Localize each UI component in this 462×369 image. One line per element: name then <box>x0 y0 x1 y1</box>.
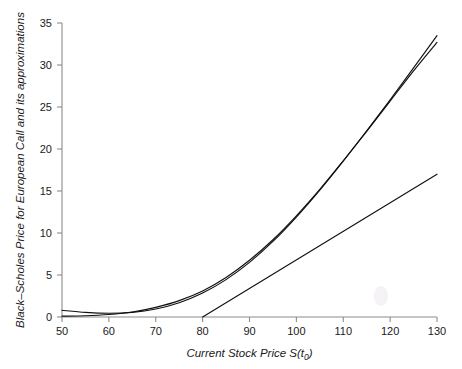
y-axis-tick-labels: 05101520253035 <box>40 17 52 323</box>
x-tick-label: 50 <box>56 325 68 337</box>
paper-smudge <box>374 286 388 306</box>
y-axis-ticks <box>57 23 62 317</box>
series-line-2 <box>203 174 437 317</box>
series-line-1 <box>62 42 437 316</box>
chart-series-group <box>62 36 437 317</box>
series-line-0 <box>62 36 437 314</box>
x-tick-label: 80 <box>197 325 209 337</box>
y-tick-label: 25 <box>40 101 52 113</box>
chart-svg: 5060708090100110120130 05101520253035 Cu… <box>0 0 462 369</box>
x-axis-ticks <box>62 317 437 322</box>
y-tick-label: 30 <box>40 59 52 71</box>
y-tick-label: 0 <box>46 311 52 323</box>
figure-container: 5060708090100110120130 05101520253035 Cu… <box>0 0 462 369</box>
x-tick-label: 100 <box>287 325 305 337</box>
y-tick-label: 10 <box>40 227 52 239</box>
x-axis-tick-labels: 5060708090100110120130 <box>56 325 446 337</box>
x-tick-label: 110 <box>334 325 352 337</box>
x-tick-label: 120 <box>381 325 399 337</box>
y-tick-label: 35 <box>40 17 52 29</box>
y-tick-label: 5 <box>46 269 52 281</box>
x-tick-label: 130 <box>428 325 446 337</box>
x-tick-label: 70 <box>150 325 162 337</box>
x-axis-title-main: Current Stock Price S(t <box>186 347 304 359</box>
y-tick-label: 15 <box>40 185 52 197</box>
x-tick-label: 60 <box>103 325 115 337</box>
x-axis-title: Current Stock Price S(t0) <box>186 347 312 362</box>
y-tick-label: 20 <box>40 143 52 155</box>
x-tick-label: 90 <box>243 325 255 337</box>
y-axis-title: Black–Scholes Price for European Call an… <box>14 12 26 328</box>
